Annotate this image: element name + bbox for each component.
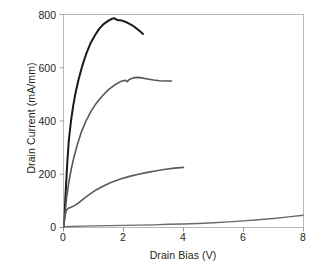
x-tick-label-8: 8 [288,231,318,243]
x-tick-label-2: 2 [108,231,138,243]
x-tick-label-4: 4 [168,231,198,243]
x-tick-label-0: 0 [48,231,78,243]
x-tick-label-6: 6 [228,231,258,243]
chart-figure: 800 600 400 200 0 0 2 4 6 8 Drain Bias (… [0,0,321,271]
plot-frame [64,15,304,228]
y-axis-title: Drain Current (mA/mm) [25,18,37,218]
x-axis-title: Drain Bias (V) [63,249,303,261]
